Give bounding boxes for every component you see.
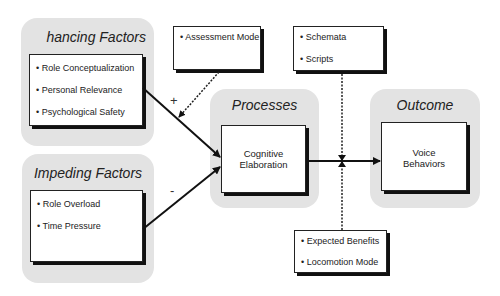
list-item: • Scripts <box>300 54 333 64</box>
list-item: • Expected Benefits <box>301 236 379 246</box>
list-item: • Personal Relevance <box>36 85 122 95</box>
impeding-factors-box: • Role Overload • Time Pressure <box>30 190 143 262</box>
enhancing-factors-box: • Role Conceptualization • Personal Rele… <box>29 54 143 126</box>
cognitive-elaboration-box: Cognitive Elaboration <box>221 125 306 193</box>
plus-sign: + <box>170 93 178 108</box>
list-item: • Time Pressure <box>37 221 101 231</box>
list-item: • Locomotion Mode <box>301 257 378 267</box>
expected-benefits-box: • Expected Benefits • Locomotion Mode <box>294 230 387 273</box>
processes-title: Processes <box>210 97 319 113</box>
impeding-factors-title: Impeding Factors <box>22 165 154 181</box>
minus-sign: - <box>170 183 174 198</box>
enhancing-to-processes-arrow <box>143 88 220 157</box>
schemata-scripts-box: • Schemata • Scripts <box>293 26 384 71</box>
outcome-title: Outcome <box>370 97 480 113</box>
list-item: • Role Conceptualization <box>36 63 134 73</box>
list-item: • Assessment Mode <box>180 32 259 42</box>
list-item: • Psychological Safety <box>36 107 125 117</box>
list-item: • Role Overload <box>37 199 100 209</box>
impeding-to-processes-arrow <box>143 167 220 229</box>
assessment-mode-box: • Assessment Mode <box>173 26 261 70</box>
voice-behaviors-box: Voice Behaviors <box>381 122 467 191</box>
list-item: • Schemata <box>300 32 346 42</box>
junction-marker-icon <box>338 155 346 167</box>
enhancing-factors-title: hancing Factors <box>46 29 146 45</box>
voice-behaviors-line2: Behaviors <box>382 158 466 170</box>
cognitive-elaboration-line2: Elaboration <box>222 159 305 171</box>
